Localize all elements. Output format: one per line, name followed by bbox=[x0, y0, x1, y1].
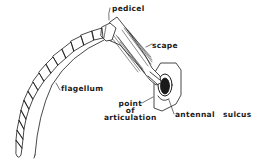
flagellum-guide-arc bbox=[34, 40, 104, 158]
antenna-diagram bbox=[0, 0, 261, 166]
label-flagellum: flagellum bbox=[61, 85, 103, 92]
label-antennal: antennal bbox=[175, 111, 215, 118]
label-point-of-articulation: point of articulation bbox=[104, 100, 157, 121]
label-scape: scape bbox=[152, 42, 178, 49]
label-sulcus: sulcus bbox=[223, 111, 251, 118]
antennal-sulcus-plate bbox=[154, 63, 181, 111]
label-articulation: articulation bbox=[104, 114, 157, 121]
label-pedicel: pedicel bbox=[112, 5, 145, 12]
